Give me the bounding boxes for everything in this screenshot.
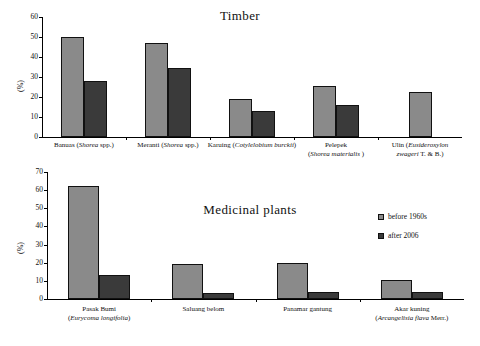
bar-after-2006[interactable] (168, 68, 191, 137)
bar-before-1960s[interactable] (381, 280, 412, 299)
y-tick-label: 0 (21, 295, 43, 303)
legend-item-before[interactable]: before 1960s (378, 212, 427, 221)
y-tick-label: 70 (21, 168, 43, 176)
y-tick-mark (39, 57, 42, 58)
y-tick-mark (39, 137, 42, 138)
x-axis-line-timber (42, 137, 462, 138)
y-tick-label: 50 (16, 33, 38, 41)
legend-swatch-before-icon (378, 214, 384, 220)
y-tick-label: 30 (16, 73, 38, 81)
y-tick-label: 40 (16, 53, 38, 61)
y-tick-mark (39, 97, 42, 98)
bar-after-2006[interactable] (203, 293, 234, 299)
legend-item-after[interactable]: after 2006 (378, 231, 419, 240)
x-tick-mark (256, 299, 257, 302)
x-category-label: Akar kuning(Arcangelisia flava Merr.) (346, 305, 478, 323)
chart-title-medicinal: Medicinal plants (150, 202, 350, 218)
y-tick-label: 60 (21, 186, 43, 194)
y-tick-mark (44, 172, 47, 173)
figure-root: Timber (%) 6050403020100 Banuas (Shorea … (0, 0, 480, 346)
bar-after-2006[interactable] (308, 292, 339, 299)
chart-medicinal-plants: Medicinal plants (%) 706050403020100 Pas… (0, 172, 480, 346)
y-tick-mark (39, 17, 42, 18)
y-tick-label: 0 (16, 133, 38, 141)
x-tick-mark (378, 137, 379, 140)
bar-after-2006[interactable] (84, 81, 107, 137)
legend-swatch-after-icon (378, 233, 384, 239)
x-category-label: Ulin (Eusideroxylonzwageri T. & B.) (364, 141, 476, 159)
bar-before-1960s[interactable] (172, 264, 203, 299)
bar-before-1960s[interactable] (229, 99, 252, 137)
x-tick-mark (151, 299, 152, 302)
y-tick-mark (39, 77, 42, 78)
x-tick-mark (126, 137, 127, 140)
y-tick-label: 20 (16, 93, 38, 101)
y-tick-mark (44, 263, 47, 264)
y-tick-label: 10 (16, 113, 38, 121)
bar-before-1960s[interactable] (68, 186, 99, 299)
legend-medicinal: before 1960s after 2006 (378, 212, 473, 246)
y-axis-label-timber: (%) (16, 80, 25, 92)
y-axis-line-timber (42, 17, 43, 138)
y-tick-mark (44, 226, 47, 227)
y-axis-line-medicinal (47, 172, 48, 300)
y-tick-mark (44, 299, 47, 300)
chart-title-timber: Timber (160, 8, 320, 24)
y-tick-label: 10 (21, 277, 43, 285)
y-tick-label: 20 (21, 259, 43, 267)
bar-after-2006[interactable] (252, 111, 275, 137)
bar-before-1960s[interactable] (409, 92, 432, 137)
y-tick-label: 50 (21, 204, 43, 212)
x-tick-mark (294, 137, 295, 140)
bar-before-1960s[interactable] (61, 37, 84, 137)
bar-before-1960s[interactable] (313, 86, 336, 137)
y-tick-mark (39, 37, 42, 38)
x-tick-mark (360, 299, 361, 302)
y-tick-label: 30 (21, 241, 43, 249)
legend-label-before: before 1960s (388, 212, 427, 221)
bar-before-1960s[interactable] (145, 43, 168, 137)
x-tick-mark (210, 137, 211, 140)
bar-after-2006[interactable] (336, 105, 359, 137)
bar-after-2006[interactable] (412, 292, 443, 299)
legend-label-after: after 2006 (388, 231, 419, 240)
y-tick-mark (39, 117, 42, 118)
y-tick-label: 60 (16, 13, 38, 21)
y-tick-label: 40 (21, 222, 43, 230)
bar-after-2006[interactable] (99, 275, 130, 299)
chart-timber: Timber (%) 6050403020100 Banuas (Shorea … (0, 0, 480, 172)
y-tick-mark (44, 208, 47, 209)
y-tick-mark (44, 190, 47, 191)
y-tick-mark (44, 245, 47, 246)
y-tick-mark (44, 281, 47, 282)
bar-before-1960s[interactable] (277, 263, 308, 299)
